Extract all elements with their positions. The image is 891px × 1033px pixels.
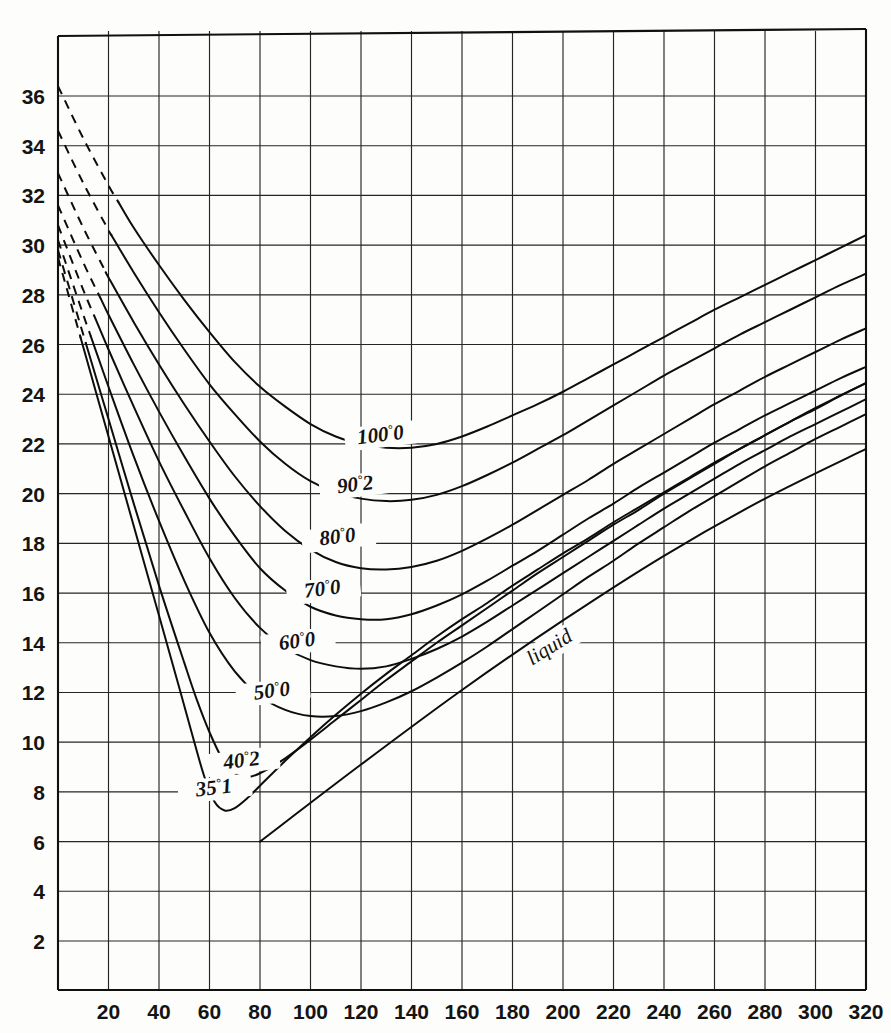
curve-dashed-segment [58,250,86,344]
curve-labels: 100°090°280°070°060°050°040°235°1liquid [177,420,583,805]
x-axis-tick-labels: 2040608010012014016018020022024026028030… [97,1000,884,1023]
curve-dashed-segment [58,240,91,336]
curve-label-700: 70°0 [303,574,342,602]
chart-canvas: 100°090°280°070°060°050°040°235°1liquid … [0,0,891,1033]
x-tick-label: 260 [697,1000,732,1023]
y-tick-label: 18 [22,532,46,555]
y-tick-label: 36 [22,85,45,108]
x-tick-label: 320 [848,1000,883,1023]
x-tick-label: 60 [198,1000,221,1023]
curve-label-902: 90°2 [336,470,375,498]
x-tick-label: 160 [444,1000,479,1023]
curve-dashed-segment [58,258,81,339]
x-tick-label: 140 [394,1000,429,1023]
y-tick-label: 22 [22,433,45,456]
y-tick-label: 14 [22,632,46,655]
y-tick-label: 32 [22,184,45,207]
y-tick-label: 2 [33,930,45,953]
y-tick-label: 28 [22,284,46,307]
curve-600 [96,320,866,669]
x-tick-label: 300 [798,1000,833,1023]
y-tick-label: 24 [22,383,46,406]
curve-500 [91,336,866,716]
curve-700 [101,299,866,620]
curve-402 [86,343,866,777]
curve-dashed-segment [58,86,119,202]
y-tick-label: 10 [22,731,45,754]
y-tick-label: 34 [22,135,46,158]
curve-dashed-segment [58,131,111,235]
x-tick-label: 20 [97,1000,120,1023]
curve-label-800: 80°0 [318,522,357,550]
x-tick-label: 200 [545,1000,580,1023]
y-tick-label: 8 [33,781,45,804]
curve-label-351: 35°1 [193,773,233,801]
x-tick-label: 120 [343,1000,378,1023]
y-tick-label: 26 [22,334,45,357]
isotherm-chart-figure: 100°090°280°070°060°050°040°235°1liquid … [0,0,891,1033]
y-tick-label: 30 [22,234,45,257]
chart-page: 100°090°280°070°060°050°040°235°1liquid … [0,0,891,1033]
curve-label-500: 50°0 [252,676,291,704]
y-tick-label: 20 [22,483,45,506]
x-tick-label: 240 [646,1000,681,1023]
x-tick-label: 280 [747,1000,782,1023]
x-tick-label: 100 [293,1000,328,1023]
curve-351 [80,337,866,811]
curve-label-600: 60°0 [278,627,317,655]
y-tick-label: 12 [22,681,45,704]
y-axis-tick-labels: 24681012141618202224262830323436 [22,85,46,953]
curve-label-402: 40°2 [221,746,261,774]
y-tick-label: 6 [33,831,45,854]
curve-1000 [119,202,866,448]
x-tick-label: 80 [248,1000,271,1023]
x-tick-label: 220 [596,1000,631,1023]
y-tick-label: 16 [22,582,45,605]
y-tick-label: 4 [33,880,45,903]
x-tick-label: 180 [495,1000,530,1023]
x-tick-label: 40 [147,1000,170,1023]
curve-800 [106,272,866,569]
